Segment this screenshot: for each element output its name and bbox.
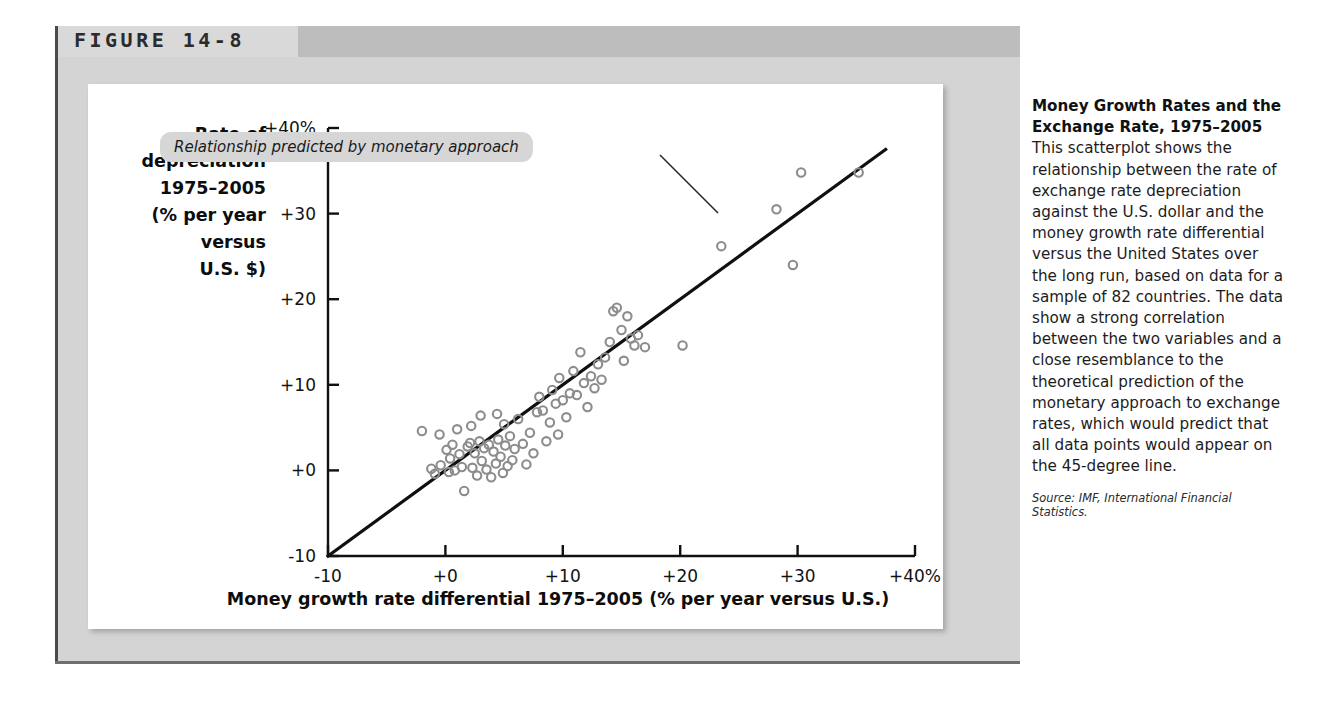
data-point xyxy=(569,367,577,375)
data-point xyxy=(473,471,481,479)
data-point xyxy=(446,454,454,462)
figure-page: FIGURE 14-8 Rate ofdepreciation1975–2005… xyxy=(0,0,1320,722)
svg-text:-10: -10 xyxy=(314,566,342,586)
data-point xyxy=(478,457,486,465)
data-point xyxy=(606,338,614,346)
data-point xyxy=(493,410,501,418)
data-point xyxy=(460,487,468,495)
data-point xyxy=(630,341,638,349)
caption-lead-in: Money Growth Rates and the Exchange Rate… xyxy=(1032,97,1281,136)
svg-text:versus: versus xyxy=(201,232,266,252)
data-point xyxy=(634,331,642,339)
data-point xyxy=(522,460,530,468)
x-axis-ticks: -10+0+10+20+30+40% xyxy=(314,545,941,586)
data-point xyxy=(623,312,631,320)
data-point xyxy=(546,418,554,426)
svg-text:+30: +30 xyxy=(780,566,816,586)
data-point xyxy=(580,379,588,387)
data-point xyxy=(583,403,591,411)
data-point xyxy=(487,473,495,481)
svg-text:-10: -10 xyxy=(288,546,316,566)
data-point xyxy=(476,411,484,419)
data-point xyxy=(458,463,466,471)
data-point xyxy=(554,430,562,438)
chart-card: Rate ofdepreciation1975–2005(% per yearv… xyxy=(88,84,943,629)
data-point xyxy=(559,396,567,404)
data-point xyxy=(789,261,797,269)
data-point xyxy=(797,168,805,176)
svg-text:+20: +20 xyxy=(280,289,316,309)
data-point xyxy=(535,393,543,401)
svg-text:U.S. $): U.S. $) xyxy=(200,259,266,279)
caption-body-text: This scatterplot shows the relationship … xyxy=(1032,139,1283,475)
data-point xyxy=(555,374,563,382)
figure-number-label: FIGURE 14-8 xyxy=(74,28,245,52)
data-point xyxy=(620,357,628,365)
data-point xyxy=(590,384,598,392)
caption-column: Money Growth Rates and the Exchange Rate… xyxy=(1032,96,1284,519)
data-point xyxy=(617,326,625,334)
scatterplot: Rate ofdepreciation1975–2005(% per yearv… xyxy=(88,84,943,629)
svg-text:(% per year: (% per year xyxy=(152,205,267,225)
data-point xyxy=(453,425,461,433)
svg-text:1975–2005: 1975–2005 xyxy=(160,178,266,198)
data-point xyxy=(508,456,516,464)
svg-text:+10: +10 xyxy=(545,566,581,586)
panel-bottom-rule xyxy=(55,661,1020,664)
data-point xyxy=(562,413,570,421)
data-point xyxy=(587,372,595,380)
data-point xyxy=(529,449,537,457)
data-point xyxy=(576,348,584,356)
data-point xyxy=(597,375,605,383)
data-point xyxy=(496,453,504,461)
svg-text:+10: +10 xyxy=(280,375,316,395)
data-point xyxy=(506,432,514,440)
data-point xyxy=(542,437,550,445)
data-point xyxy=(437,461,445,469)
svg-text:+30: +30 xyxy=(280,204,316,224)
data-points xyxy=(418,168,863,495)
data-point xyxy=(641,343,649,351)
data-point xyxy=(717,242,725,250)
svg-text:+40%: +40% xyxy=(889,566,941,586)
data-point xyxy=(448,441,456,449)
svg-text:+0: +0 xyxy=(433,566,458,586)
data-point xyxy=(510,445,518,453)
data-point xyxy=(455,450,463,458)
data-point xyxy=(772,205,780,213)
svg-text:+20: +20 xyxy=(662,566,698,586)
figure-header-accent xyxy=(298,26,1020,57)
x-axis-title: Money growth rate differential 1975–2005… xyxy=(227,589,889,609)
caption-text: Money Growth Rates and the Exchange Rate… xyxy=(1032,96,1284,478)
data-point xyxy=(501,441,509,449)
annotation-leader-line xyxy=(660,155,718,213)
data-point xyxy=(418,427,426,435)
data-point xyxy=(467,422,475,430)
svg-text:+0: +0 xyxy=(291,460,316,480)
annotation-callout: Relationship predicted by monetary appro… xyxy=(160,132,718,213)
annotation-label: Relationship predicted by monetary appro… xyxy=(174,138,519,156)
caption-source: Source: IMF, International Financial Sta… xyxy=(1032,491,1284,519)
data-point xyxy=(519,440,527,448)
data-point xyxy=(678,341,686,349)
data-point xyxy=(594,360,602,368)
data-point xyxy=(435,430,443,438)
data-point xyxy=(526,429,534,437)
